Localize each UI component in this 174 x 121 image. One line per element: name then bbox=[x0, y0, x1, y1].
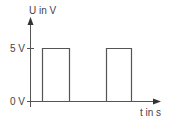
low-level-label: 0 V bbox=[10, 96, 25, 107]
x-axis-arrow-icon bbox=[153, 99, 161, 105]
y-axis-label: U in V bbox=[29, 5, 57, 16]
square-wave-diagram: U in V 5 V 0 V t in s bbox=[0, 0, 174, 121]
square-wave-signal bbox=[31, 49, 151, 102]
x-axis-label: t in s bbox=[140, 107, 161, 118]
y-axis-arrow-icon bbox=[28, 17, 34, 25]
high-level-label: 5 V bbox=[10, 43, 25, 54]
